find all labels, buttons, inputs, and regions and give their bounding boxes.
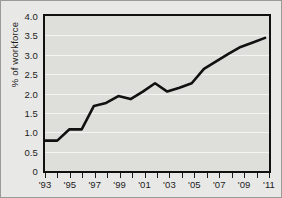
x-tick: [82, 173, 83, 178]
y-tick-label: 2.0: [24, 88, 38, 99]
x-tick: [70, 173, 71, 178]
x-tick: [145, 173, 146, 178]
x-tick-label: '93: [39, 179, 52, 190]
x-tick-label: '11: [263, 179, 275, 190]
x-tick-label: '05: [188, 179, 201, 190]
x-tick: [169, 173, 170, 178]
x-tick: [232, 173, 233, 178]
x-tick: [219, 173, 220, 178]
x-axis-tick-labels: '93'95'97'99'01'03'05'07'09'11: [0, 179, 282, 195]
plot-area: [43, 14, 271, 173]
x-tick: [244, 173, 245, 178]
x-tick: [257, 173, 258, 178]
x-tick: [107, 173, 108, 178]
x-tick: [182, 173, 183, 178]
x-tick: [194, 173, 195, 178]
x-tick-label: '97: [88, 179, 101, 190]
x-tick: [45, 173, 46, 178]
y-tick-label: 2.5: [24, 69, 38, 80]
y-tick-label: 4.0: [24, 11, 38, 22]
y-tick-label: 0: [33, 166, 38, 177]
x-tick-label: '01: [138, 179, 151, 190]
x-tick: [95, 173, 96, 178]
x-tick: [120, 173, 121, 178]
y-tick-label: 1.0: [24, 127, 38, 138]
x-tick-label: '99: [113, 179, 126, 190]
x-tick: [269, 173, 270, 178]
y-axis-tick-labels: 00.51.01.52.02.53.03.54.0: [0, 0, 41, 198]
x-axis-ticks: [43, 173, 271, 179]
x-tick-label: '07: [213, 179, 226, 190]
x-tick: [57, 173, 58, 178]
y-tick-label: 0.5: [24, 146, 38, 157]
chart-figure: % of workforce 00.51.01.52.02.53.03.54.0…: [0, 0, 282, 198]
y-tick-label: 1.5: [24, 107, 38, 118]
x-tick-label: '09: [238, 179, 251, 190]
x-tick-label: '03: [163, 179, 176, 190]
x-tick: [157, 173, 158, 178]
y-axis-title: % of workforce: [9, 0, 20, 115]
y-tick-label: 3.5: [24, 30, 38, 41]
x-tick-label: '95: [64, 179, 77, 190]
line-series: [45, 16, 269, 171]
x-tick: [207, 173, 208, 178]
y-tick-label: 3.0: [24, 49, 38, 60]
x-tick: [132, 173, 133, 178]
series-polyline: [45, 38, 265, 141]
